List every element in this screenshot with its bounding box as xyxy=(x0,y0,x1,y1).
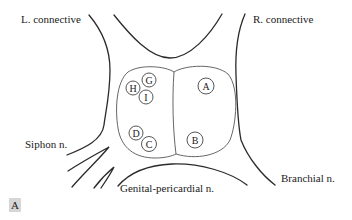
siphon-nerve-branch-1 xyxy=(68,147,109,187)
svg-text:G: G xyxy=(145,75,152,86)
cell-H: H xyxy=(126,81,140,95)
genital-pericardial-nerve-label: Genital-pericardial n. xyxy=(120,182,214,194)
cell-B: B xyxy=(187,132,203,148)
svg-text:B: B xyxy=(192,135,199,146)
cell-I: I xyxy=(139,90,153,104)
left-connective-label: L. connective xyxy=(21,13,81,25)
svg-text:H: H xyxy=(129,83,136,94)
siphon-nerve-label: Siphon n. xyxy=(25,138,67,150)
branchial-nerve-label: Branchial n. xyxy=(281,172,335,184)
svg-text:I: I xyxy=(144,92,147,103)
cell-C: C xyxy=(142,137,157,152)
svg-text:C: C xyxy=(146,139,153,150)
panel-label-badge: A xyxy=(9,198,21,212)
svg-text:D: D xyxy=(132,128,139,139)
hemiganglion-divider xyxy=(173,72,176,154)
left-connective-nerve xyxy=(67,15,110,155)
svg-text:A: A xyxy=(202,81,210,92)
cell-A: A xyxy=(198,78,214,94)
cell-D: D xyxy=(129,126,143,140)
cell-G: G xyxy=(142,73,156,87)
siphon-nerve-branch-2 xyxy=(94,167,114,188)
right-connective-nerve xyxy=(236,14,275,185)
right-connective-label: R. connective xyxy=(253,13,313,25)
interconnective-curve xyxy=(114,14,222,58)
